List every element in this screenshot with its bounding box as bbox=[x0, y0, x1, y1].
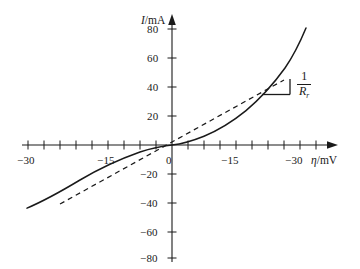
y-tick-label-80: 80 bbox=[147, 23, 158, 35]
y-tick-label-40: 40 bbox=[147, 81, 158, 93]
x-tick-label-minus15-left: −15 bbox=[97, 154, 115, 166]
x-axis-label: η/mV bbox=[311, 154, 337, 166]
slope-denominator: Rr bbox=[297, 85, 311, 100]
slope-label-fraction: 1 Rr bbox=[297, 70, 311, 100]
y-axis-arrowhead bbox=[168, 14, 176, 25]
y-tick-label-minus20: −20 bbox=[140, 168, 158, 180]
butler-volmer-curve bbox=[27, 28, 306, 208]
x-tick-label-zero: 0 bbox=[166, 154, 172, 166]
y-tick-label-60: 60 bbox=[147, 52, 158, 64]
y-tick-label-20: 20 bbox=[147, 110, 158, 122]
y-tick-label-minus40: −40 bbox=[140, 197, 158, 209]
y-tick-label-minus60: −60 bbox=[140, 226, 158, 238]
x-tick-label-minus30-right: −30 bbox=[285, 154, 303, 166]
iv-characteristic-chart bbox=[0, 0, 360, 269]
x-tick-label-minus30-left: −30 bbox=[17, 154, 35, 166]
slope-numerator: 1 bbox=[297, 70, 311, 83]
x-axis-arrowhead bbox=[327, 141, 338, 149]
y-tick-label-minus80: −80 bbox=[140, 252, 158, 264]
x-tick-label-minus15-right: −15 bbox=[221, 154, 239, 166]
